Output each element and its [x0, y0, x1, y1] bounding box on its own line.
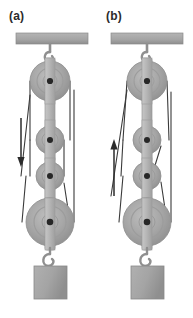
pulley-1-hub	[47, 78, 53, 84]
hanging-block	[34, 266, 67, 299]
pulley-1-hub	[144, 78, 150, 84]
bottom-hook-icon	[140, 248, 150, 266]
pulley-4-hub	[47, 219, 54, 226]
ceiling-bar	[16, 33, 88, 44]
panel-a: (a)	[0, 0, 96, 318]
ceiling-bar	[111, 33, 183, 44]
pulley-figure: (a)	[0, 0, 193, 318]
pulley-2-hub	[47, 137, 53, 143]
pulley-2-hub	[144, 137, 150, 143]
rope-pull-direction-arrow	[17, 118, 24, 167]
bottom-hook-icon	[43, 248, 53, 266]
panel-a-illustration	[0, 0, 96, 318]
pulley-3-hub	[47, 173, 53, 179]
hanging-block	[131, 266, 164, 299]
rope-pull-direction-arrow	[110, 139, 117, 196]
panel-b-illustration	[97, 0, 193, 318]
pulley-3-hub	[144, 173, 150, 179]
panel-b: (b)	[97, 0, 193, 318]
pulley-4-hub	[144, 219, 151, 226]
